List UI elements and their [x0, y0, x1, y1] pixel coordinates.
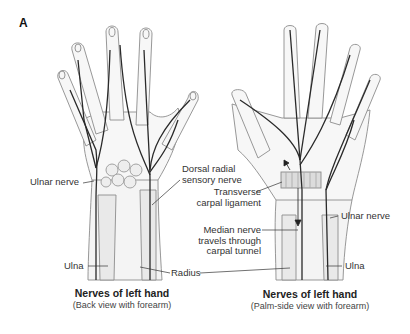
label-transverse-carpal-ligament: Transverse carpal ligament: [195, 187, 261, 208]
label-ulnar-nerve-right: Ulnar nerve: [341, 211, 390, 222]
label-ulna-right: Ulna: [345, 261, 365, 272]
label-ulnar-nerve-left: Ulnar nerve: [30, 177, 79, 188]
panel-letter: A: [19, 16, 28, 30]
hand-nerves-figure: A Ulnar nerve Ulna Dorsal radial sensory…: [0, 0, 410, 334]
right-caption-title: Nerves of left hand: [250, 288, 370, 300]
label-dorsal-radial-sensory-nerve: Dorsal radial sensory nerve: [182, 164, 242, 185]
left-caption-title: Nerves of left hand: [62, 287, 182, 299]
left-caption-subtitle: (Back view with forearm): [52, 300, 192, 310]
label-ulna-left: Ulna: [64, 261, 84, 272]
label-median-nerve: Median nerve travels through carpal tunn…: [190, 225, 261, 257]
right-caption-subtitle: (Palm-side view with forearm): [240, 301, 380, 311]
label-radius: Radius: [171, 268, 201, 279]
